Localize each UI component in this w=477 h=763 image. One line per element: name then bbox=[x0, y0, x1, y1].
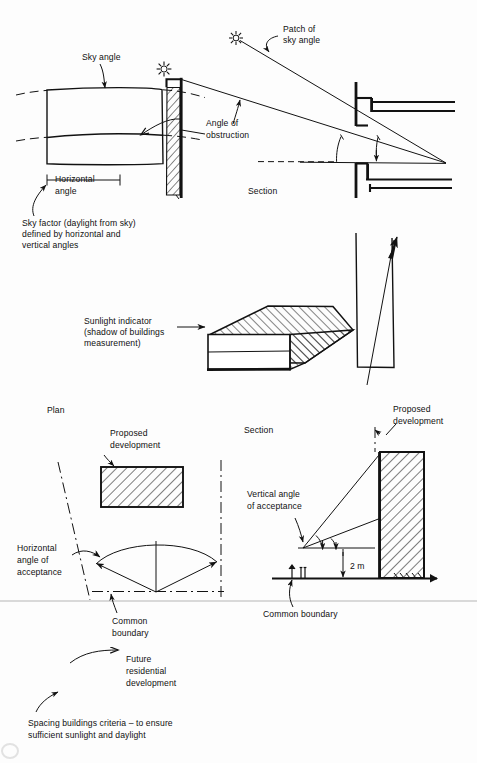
wall-hatch-body bbox=[167, 88, 181, 196]
label-vertical-angle-acceptance-line2: of acceptance bbox=[247, 501, 302, 512]
label-sunlight-indicator-line3: measurement) bbox=[84, 338, 141, 349]
section-ground-arrow bbox=[430, 574, 438, 583]
leader-vertical-angle-acceptance bbox=[295, 518, 303, 542]
middle-vertical-obstruction bbox=[356, 233, 397, 385]
figure-sheet: Sky angle Patch of sky angle Angle of ob… bbox=[0, 0, 477, 763]
note-sky-factor-line1: Sky factor (daylight from sky) bbox=[22, 218, 136, 229]
section-acceptance-rays bbox=[303, 453, 381, 550]
plan-proposed-development bbox=[101, 467, 183, 507]
label-future-residential-line2: residential bbox=[126, 666, 166, 677]
label-plan-common-boundary-line1: Common bbox=[112, 616, 147, 627]
leader-horizontal-angle-acceptance bbox=[72, 551, 100, 557]
leader-sky-angle bbox=[100, 64, 105, 88]
sky-extension-top-left bbox=[16, 90, 47, 95]
plan-angle-of-acceptance-fan bbox=[96, 541, 217, 592]
label-dimension-2m: 2 m bbox=[350, 561, 365, 572]
receiving-window-lower bbox=[356, 163, 452, 198]
sun-icon bbox=[157, 62, 172, 77]
label-section-title: Section bbox=[244, 425, 273, 436]
label-patch-of-sky-angle-line2: sky angle bbox=[283, 35, 320, 46]
wall-base-tick bbox=[176, 195, 179, 199]
label-section-proposed-development-line1: Proposed bbox=[393, 404, 431, 415]
sky-extension-mid-left bbox=[16, 137, 47, 141]
ray-datum bbox=[300, 162, 446, 163]
angle-arcs-group bbox=[337, 135, 380, 162]
sun-icon bbox=[229, 31, 243, 45]
figure-caption-line2: sufficient sunlight and daylight bbox=[28, 730, 146, 741]
ray-upper-acceptance bbox=[303, 453, 381, 549]
label-sunlight-indicator-line2: (shadow of buildings bbox=[84, 327, 164, 338]
figure-caption-line1: Spacing buildings criteria – to ensure bbox=[28, 718, 173, 729]
section-proposed-development bbox=[380, 452, 425, 578]
window-outline bbox=[47, 88, 163, 165]
note-sky-factor-line2: defined by horizontal and bbox=[22, 229, 121, 240]
leader-patch-of-sky bbox=[266, 36, 278, 52]
label-sky-angle: Sky angle bbox=[82, 52, 121, 63]
indicator-side-face bbox=[290, 330, 353, 370]
leader-caption bbox=[36, 692, 58, 712]
page-mark bbox=[2, 744, 18, 758]
fan-right-edge bbox=[156, 562, 217, 592]
label-section-proposed-development-line2: development bbox=[393, 416, 443, 427]
label-angle-of-obstruction-line2: obstruction bbox=[206, 130, 249, 141]
label-horizontal-angle-line2: angle bbox=[55, 186, 77, 197]
window-mullion bbox=[47, 134, 163, 138]
label-horizontal-angle-line1: Horizontal bbox=[55, 174, 95, 185]
wall-parapet-step bbox=[167, 79, 181, 87]
obstruction-wall-group bbox=[167, 78, 182, 199]
label-horizontal-angle-acceptance-line3: acceptance bbox=[17, 567, 62, 578]
arc-angle-of-obstruction bbox=[337, 137, 341, 162]
label-future-residential-line3: development bbox=[126, 678, 176, 689]
leader-angle-obstruction-wall bbox=[182, 130, 206, 134]
label-horizontal-angle-acceptance-line1: Horizontal bbox=[17, 543, 57, 554]
leader-section-common-boundary bbox=[290, 580, 294, 607]
label-angle-of-obstruction-line1: Angle of bbox=[206, 118, 238, 129]
label-plan-common-boundary-line2: boundary bbox=[112, 628, 149, 639]
arc-vertical-angle-inner bbox=[331, 539, 336, 548]
label-plan-proposed-development-line2: development bbox=[110, 440, 160, 451]
diagram-vector-layer bbox=[0, 0, 477, 763]
label-patch-of-sky-angle-line1: Patch of bbox=[283, 24, 315, 35]
leader-future-residential bbox=[70, 650, 118, 663]
middle-diagonal-ray bbox=[367, 240, 394, 385]
fan-left-edge bbox=[97, 564, 157, 593]
label-vertical-angle-acceptance-line1: Vertical angle bbox=[247, 489, 300, 500]
leader-sky-factor bbox=[33, 185, 46, 216]
leader-plan-proposed-development bbox=[104, 455, 114, 466]
label-section-top: Section bbox=[248, 186, 277, 197]
leader-plan-common-boundary bbox=[111, 594, 117, 613]
label-section-common-boundary: Common boundary bbox=[263, 609, 338, 620]
plan-boundary-left-angled bbox=[58, 462, 90, 600]
label-future-residential-line1: Future bbox=[126, 654, 151, 665]
label-sunlight-indicator-line1: Sunlight indicator bbox=[84, 316, 152, 327]
receiving-window-upper bbox=[356, 82, 455, 126]
sunlight-indicator-solid bbox=[207, 306, 353, 370]
label-plan-title: Plan bbox=[47, 405, 65, 416]
note-sky-factor-line3: vertical angles bbox=[22, 240, 78, 251]
label-plan-proposed-development-line1: Proposed bbox=[110, 428, 148, 439]
label-horizontal-angle-acceptance-line2: angle of bbox=[17, 555, 48, 566]
section-ground-figures bbox=[289, 565, 306, 578]
leader-section-proposed-dev-tick bbox=[375, 430, 380, 434]
